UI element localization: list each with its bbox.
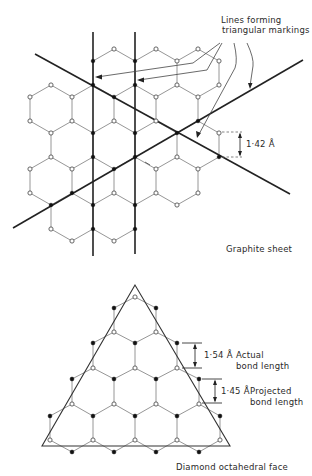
callout-leader-lines: [95, 43, 253, 165]
carbon-atom: [154, 167, 158, 171]
upper-layer-atom: [175, 341, 179, 345]
carbon-atom: [49, 155, 53, 159]
atom-on-line: [133, 227, 137, 231]
carbon-atom: [175, 155, 179, 159]
atom-on-line: [91, 227, 95, 231]
atom-on-line: [91, 203, 95, 207]
upper-layer-atom: [197, 377, 201, 381]
lower-layer-atom: [175, 438, 179, 442]
graphite-atoms: [28, 47, 221, 243]
actual-bond-text-2: bond length: [236, 362, 289, 371]
carbon-atom: [70, 239, 74, 243]
carbon-atom: [28, 95, 32, 99]
carbon-atom: [217, 131, 221, 135]
triangle-outline: [42, 285, 230, 446]
callout-label-line2: triangular markings: [222, 26, 310, 35]
upper-layer-atom: [48, 414, 52, 418]
graphite-caption: Graphite sheet: [226, 245, 292, 254]
carbon-atom: [175, 59, 179, 63]
carbon-atom: [70, 95, 74, 99]
graphite-bond-length-label: 1·42 Å: [246, 140, 275, 149]
graphite-bonds: [30, 49, 219, 241]
atom-on-line: [133, 155, 137, 159]
upper-layer-atom: [154, 306, 158, 310]
carbon-atom: [154, 47, 158, 51]
lower-layer-atom: [154, 402, 158, 406]
atom-on-line: [91, 131, 95, 135]
carbon-atom: [112, 119, 116, 123]
lower-layer-atom: [91, 366, 95, 370]
upper-layer-atom: [91, 414, 95, 418]
actual-bond-text: Actual: [236, 351, 264, 360]
projected-bond-text: Projected: [250, 387, 292, 396]
lower-layer-atom: [133, 366, 137, 370]
callout-label-line1: Lines forming: [221, 16, 281, 25]
lower-layer-atom: [218, 438, 222, 442]
atom-on-line: [91, 83, 95, 87]
atom-on-line: [196, 119, 200, 123]
carbon-atom: [112, 239, 116, 243]
lower-layer-atom: [154, 330, 158, 334]
lower-layer-atom: [91, 438, 95, 442]
carbon-atom: [154, 119, 158, 123]
upper-layer-atom: [218, 414, 222, 418]
carbon-atom: [112, 47, 116, 51]
lower-layer-atom: [112, 402, 116, 406]
carbon-atom: [154, 191, 158, 195]
projected-bond-value: 1·45 Å: [221, 387, 250, 396]
carbon-atom: [175, 83, 179, 87]
arrow-head-icon: [248, 83, 253, 89]
upper-layer-atom: [112, 377, 116, 381]
carbon-atom: [28, 119, 32, 123]
carbon-atom: [70, 167, 74, 171]
atom-on-line: [175, 131, 179, 135]
carbon-atom: [49, 131, 53, 135]
carbon-atom: [49, 83, 53, 87]
upper-layer-atom: [154, 377, 158, 381]
carbon-atom: [28, 191, 32, 195]
atom-on-line: [49, 203, 53, 207]
atom-on-line: [112, 95, 116, 99]
carbon-atom: [196, 95, 200, 99]
lower-layer-atom: [133, 438, 137, 442]
upper-layer-atom: [112, 306, 116, 310]
lower-layer-atom: [133, 295, 137, 299]
upper-layer-atom: [70, 377, 74, 381]
carbon-atom: [49, 227, 53, 231]
arrow-head-icon: [137, 78, 144, 83]
lower-layer-atom: [197, 402, 201, 406]
upper-layer-atom: [133, 414, 137, 418]
upper-layer-atom: [197, 450, 201, 454]
upper-layer-atom: [112, 450, 116, 454]
carbon-atom: [217, 59, 221, 63]
carbon-atom: [112, 191, 116, 195]
upper-layer-atom: [133, 341, 137, 345]
atom-on-line: [133, 59, 137, 63]
atom-on-line: [133, 83, 137, 87]
atom-on-line: [133, 131, 137, 135]
carbon-atom: [28, 167, 32, 171]
actual-bond-value: 1·54 Å: [204, 351, 233, 360]
upper-layer-atom: [91, 341, 95, 345]
arrow-head-icon: [95, 75, 102, 80]
lower-layer-atom: [70, 402, 74, 406]
atom-on-line: [91, 59, 95, 63]
carbon-atom: [154, 95, 158, 99]
atom-on-line: [112, 167, 116, 171]
lower-layer-atom: [48, 438, 52, 442]
graphite-bond-dimension: [222, 132, 242, 157]
diamond-caption: Diamond octahedral face: [176, 463, 288, 472]
carbon-atom: [196, 167, 200, 171]
projected-bond-text-2: bond length: [250, 398, 303, 407]
atom-on-line: [217, 155, 221, 159]
octahedral-face-outline: [42, 285, 230, 446]
upper-layer-atom: [154, 450, 158, 454]
diamond-bonds: [50, 297, 220, 452]
carbon-atom: [70, 119, 74, 123]
carbon-atom: [196, 47, 200, 51]
upper-layer-atom: [175, 414, 179, 418]
carbon-atom: [217, 83, 221, 87]
lower-layer-atom: [175, 366, 179, 370]
carbon-atom: [196, 191, 200, 195]
lower-layer-atom: [112, 330, 116, 334]
